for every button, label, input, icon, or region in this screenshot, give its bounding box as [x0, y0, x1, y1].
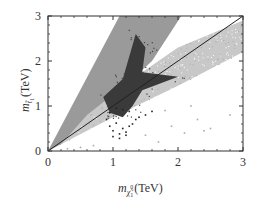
- data-point: [106, 119, 108, 121]
- band-speckle: [220, 55, 221, 56]
- band-speckle: [141, 100, 142, 101]
- dark-speckle: [100, 94, 101, 95]
- band-speckle: [209, 48, 210, 49]
- band-speckle: [180, 54, 181, 55]
- band-speckle: [219, 64, 220, 65]
- band-speckle: [235, 37, 236, 38]
- y-tick-label: 2: [35, 54, 41, 68]
- dark-speckle: [124, 73, 125, 74]
- band-speckle: [228, 42, 229, 43]
- dark-speckle: [139, 36, 140, 37]
- dark-speckle: [149, 96, 150, 97]
- band-speckle: [180, 83, 181, 84]
- band-speckle: [213, 55, 214, 56]
- dark-speckle: [184, 78, 185, 79]
- data-point: [158, 141, 160, 143]
- dark-speckle: [107, 112, 108, 113]
- band-speckle: [225, 59, 226, 60]
- band-speckle: [198, 60, 199, 61]
- data-point: [203, 130, 205, 132]
- dark-speckle: [131, 39, 132, 40]
- band-speckle: [233, 41, 234, 42]
- x-axis-label: mχ̃10(TeV): [118, 181, 163, 198]
- dark-speckle: [140, 112, 141, 113]
- dark-speckle: [147, 44, 148, 45]
- band-speckle: [194, 59, 195, 60]
- band-speckle: [190, 64, 191, 65]
- band-speckle: [185, 51, 186, 52]
- band-speckle: [207, 56, 208, 57]
- x-tick-label: 3: [240, 155, 246, 169]
- band-speckle: [223, 40, 224, 41]
- band-speckle: [231, 58, 232, 59]
- data-point: [184, 132, 186, 134]
- band-speckle: [168, 58, 169, 59]
- band-speckle: [204, 65, 205, 66]
- band-speckle: [175, 67, 176, 68]
- band-speckle: [208, 59, 209, 60]
- band-speckle: [91, 114, 92, 115]
- data-point: [115, 122, 117, 124]
- data-point: [122, 128, 124, 130]
- band-speckle: [180, 65, 181, 66]
- band-speckle: [220, 37, 221, 38]
- data-point: [229, 114, 231, 116]
- band-speckle: [171, 74, 172, 75]
- band-speckle: [93, 125, 94, 126]
- band-speckle: [217, 59, 218, 60]
- band-speckle: [198, 54, 199, 55]
- band-speckle: [232, 37, 233, 38]
- band-speckle: [158, 89, 159, 90]
- y-tick-label: 3: [35, 9, 41, 23]
- band-speckle: [182, 64, 183, 65]
- data-point: [210, 128, 212, 130]
- data-point: [190, 105, 192, 107]
- band-speckle: [181, 48, 182, 49]
- band-speckle: [186, 48, 187, 49]
- band-speckle: [239, 37, 240, 38]
- band-speckle: [163, 61, 164, 62]
- band-speckle: [198, 41, 199, 42]
- band-speckle: [186, 44, 187, 45]
- band-speckle: [190, 79, 191, 80]
- band-speckle: [216, 37, 217, 38]
- band-speckle: [207, 36, 208, 37]
- dark-speckle: [150, 52, 151, 53]
- dark-speckle: [116, 116, 117, 117]
- band-speckle: [220, 54, 221, 55]
- dark-speckle: [107, 115, 108, 116]
- band-speckle: [181, 72, 182, 73]
- y-tick-label: 0: [35, 144, 41, 158]
- dark-speckle: [146, 93, 147, 94]
- series-group: [48, 16, 243, 151]
- data-point: [125, 131, 127, 133]
- band-speckle: [216, 65, 217, 66]
- data-point: [135, 119, 137, 121]
- dark-speckle: [139, 105, 140, 106]
- band-speckle: [178, 66, 179, 67]
- band-speckle: [225, 43, 226, 44]
- band-speckle: [194, 54, 195, 55]
- band-speckle: [171, 88, 172, 89]
- band-speckle: [155, 72, 156, 73]
- band-speckle: [241, 27, 242, 28]
- band-speckle: [199, 40, 200, 41]
- band-speckle: [167, 71, 168, 72]
- band-speckle: [91, 128, 92, 129]
- band-speckle: [227, 60, 228, 61]
- dark-speckle: [129, 30, 130, 31]
- dark-speckle: [152, 51, 153, 52]
- band-speckle: [215, 41, 216, 42]
- band-speckle: [186, 57, 187, 58]
- dark-speckle: [131, 37, 132, 38]
- data-point: [145, 134, 147, 136]
- band-speckle: [69, 140, 70, 141]
- band-speckle: [195, 53, 196, 54]
- band-speckle: [219, 36, 220, 37]
- band-speckle: [181, 65, 182, 66]
- band-speckle: [228, 55, 229, 56]
- dark-speckle: [153, 48, 154, 49]
- data-point: [119, 133, 121, 135]
- band-speckle: [226, 28, 227, 29]
- data-point: [109, 125, 111, 127]
